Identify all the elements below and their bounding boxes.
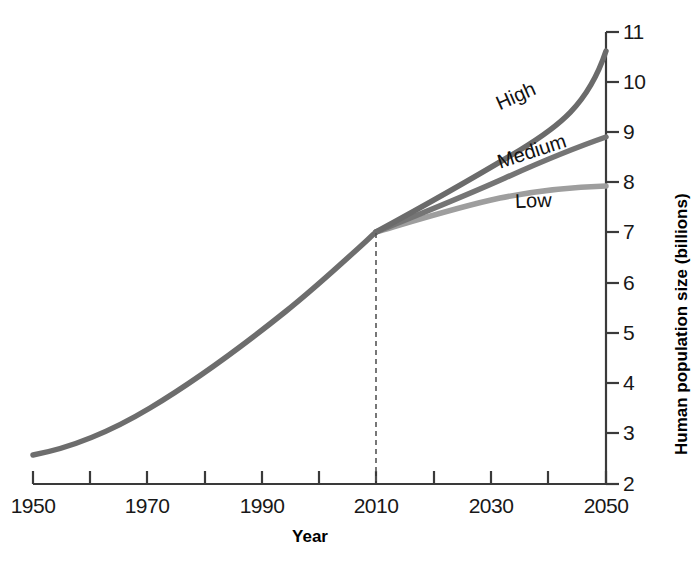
chart-plot-area xyxy=(0,0,698,565)
curve-medium xyxy=(376,137,606,232)
y-tick-label-7: 7 xyxy=(623,220,634,244)
x-tick-label-2050: 2050 xyxy=(584,494,629,518)
curve-high xyxy=(376,51,606,232)
y-tick-label-10: 10 xyxy=(623,70,645,94)
curve-label-low: Low xyxy=(515,189,552,213)
y-tick-label-4: 4 xyxy=(623,371,634,395)
y-axis-title: Human population size (billions) xyxy=(672,193,692,455)
y-tick-label-6: 6 xyxy=(623,271,634,295)
x-tick-label-1970: 1970 xyxy=(125,494,170,518)
y-axis-ticks xyxy=(606,32,619,484)
y-tick-label-8: 8 xyxy=(623,170,634,194)
curve-historical xyxy=(33,232,376,455)
y-tick-label-11: 11 xyxy=(623,20,644,44)
y-tick-label-5: 5 xyxy=(623,321,634,345)
x-tick-label-1990: 1990 xyxy=(240,494,285,518)
curve-low xyxy=(376,186,606,232)
x-tick-label-2010: 2010 xyxy=(354,494,399,518)
population-projection-chart: 1950 1970 1990 2010 2030 2050 11 10 9 8 … xyxy=(0,0,698,565)
y-tick-label-2: 2 xyxy=(623,472,634,496)
x-axis-ticks xyxy=(33,471,606,484)
x-tick-label-1950: 1950 xyxy=(11,494,56,518)
y-tick-label-9: 9 xyxy=(623,120,634,144)
x-tick-label-2030: 2030 xyxy=(469,494,514,518)
y-tick-label-3: 3 xyxy=(623,421,634,445)
x-axis-title: Year xyxy=(0,527,620,547)
